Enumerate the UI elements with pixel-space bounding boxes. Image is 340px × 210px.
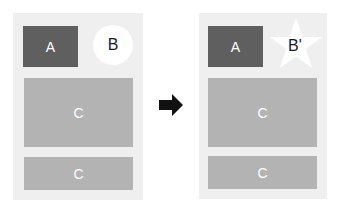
arrow-right-icon (159, 94, 183, 116)
box-c-large-label: C (257, 105, 267, 121)
box-c-large: C (24, 78, 133, 147)
box-c-small: C (208, 156, 317, 189)
circle-b-label: B (108, 36, 119, 54)
box-c-large: C (208, 78, 317, 147)
circle-b: B (93, 25, 133, 65)
box-c-large-label: C (73, 105, 83, 121)
box-c-small-label: C (73, 166, 83, 182)
before-panel: A B C C (13, 13, 143, 200)
after-panel: A B' C C (199, 13, 327, 199)
box-a: A (208, 26, 263, 67)
box-a-label: A (46, 39, 55, 55)
star-b-prime-label: B' (288, 37, 302, 55)
box-a-label: A (231, 39, 240, 55)
box-c-small: C (24, 157, 133, 190)
box-a: A (23, 26, 78, 67)
box-c-small-label: C (257, 165, 267, 181)
